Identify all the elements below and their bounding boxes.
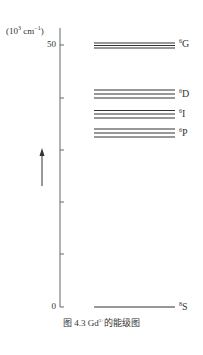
- tick-label-0: 0: [36, 301, 56, 311]
- level-6I: [94, 111, 175, 119]
- y-axis-unit-label: (103 cm−1): [6, 25, 44, 36]
- figure-caption: 图 4.3 Gd3+的能级图: [0, 316, 203, 329]
- tick-label-50: 50: [36, 39, 56, 49]
- level-6G: [94, 43, 175, 48]
- y-ticks: [60, 45, 64, 254]
- term-label-6P: 6P: [179, 127, 188, 138]
- energy-level-diagram: [0, 0, 203, 355]
- term-label-6I: 6I: [179, 108, 185, 119]
- term-label-6D: 6D: [179, 88, 189, 99]
- level-6D: [94, 90, 175, 98]
- term-label-6G: 6G: [179, 38, 189, 49]
- level-6P: [94, 129, 175, 137]
- term-label-8S: 8S: [179, 301, 188, 312]
- energy-arrow-icon: [40, 148, 45, 186]
